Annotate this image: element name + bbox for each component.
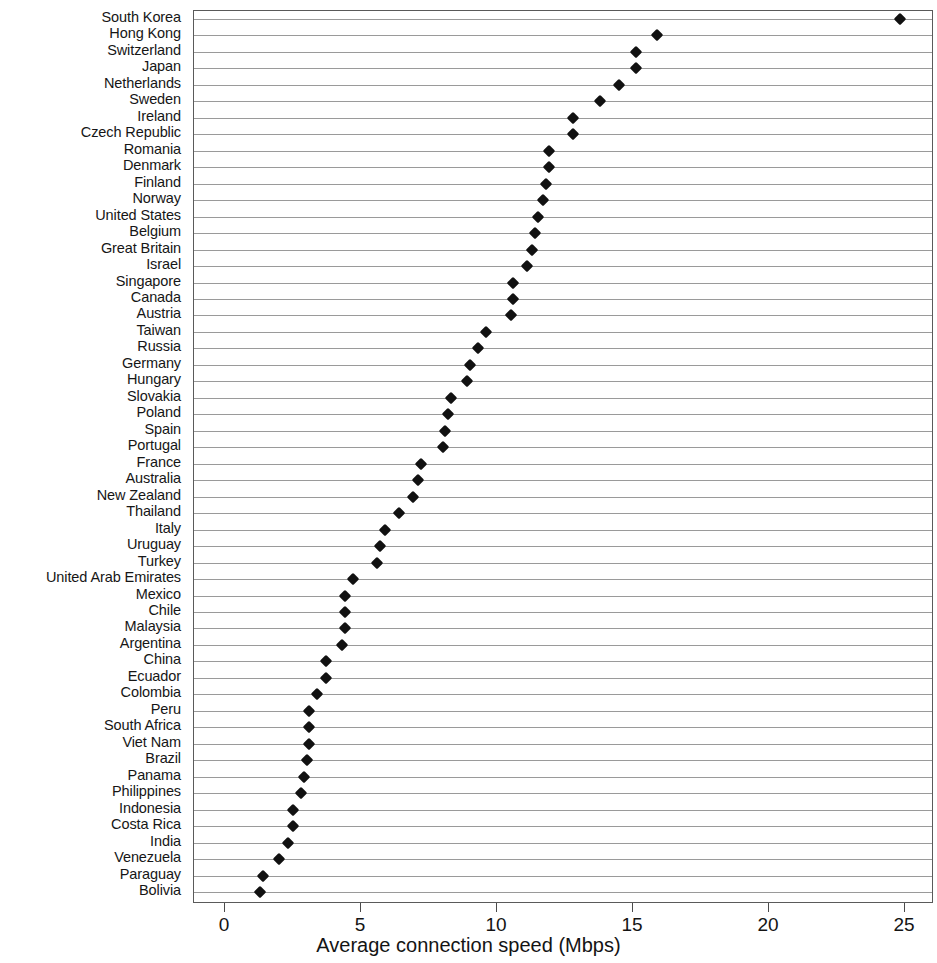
row-guide-line (194, 447, 932, 448)
dot-plot-chart: South KoreaHong KongSwitzerlandJapanNeth… (0, 0, 937, 963)
category-axis-label: South Africa (104, 718, 181, 732)
x-axis-tick-label: 20 (757, 914, 778, 936)
row-guide-line (194, 85, 932, 86)
data-point-marker (436, 441, 449, 454)
data-point-marker (414, 457, 427, 470)
data-point-marker (346, 573, 359, 586)
data-point-marker (567, 111, 580, 124)
category-axis-label: South Korea (101, 10, 181, 24)
row-guide-line (194, 217, 932, 218)
category-axis-label: Malaysia (125, 619, 181, 633)
data-point-marker (412, 474, 425, 487)
row-guide-line (194, 414, 932, 415)
category-axis-label: Hungary (127, 372, 181, 386)
category-axis-label: Panama (128, 768, 181, 782)
row-guide-line (194, 35, 932, 36)
row-guide-line (194, 596, 932, 597)
category-axis-label: Germany (122, 356, 181, 370)
data-point-marker (521, 260, 534, 273)
data-point-marker (371, 556, 384, 569)
x-axis-tick-label: 25 (893, 914, 914, 936)
row-guide-line (194, 826, 932, 827)
category-axis-label: Brazil (145, 751, 181, 765)
category-axis-label: Italy (155, 521, 181, 535)
category-axis-label: New Zealand (97, 488, 181, 502)
category-axis-label: Australia (125, 471, 181, 485)
category-axis-label: Czech Republic (81, 125, 181, 139)
row-guide-line (194, 628, 932, 629)
category-axis-label: Austria (137, 306, 181, 320)
row-guide-line (194, 513, 932, 514)
row-guide-line (194, 497, 932, 498)
category-axis-label: Japan (142, 59, 181, 73)
row-guide-line (194, 200, 932, 201)
row-guide-line (194, 134, 932, 135)
x-axis-tick-mark (360, 903, 361, 912)
category-axis-label: Peru (151, 702, 181, 716)
category-axis-label: Chile (148, 603, 181, 617)
row-guide-line (194, 464, 932, 465)
data-point-marker (504, 309, 517, 322)
row-guide-line (194, 315, 932, 316)
row-guide-line (194, 250, 932, 251)
data-point-marker (336, 639, 349, 652)
row-guide-line (194, 167, 932, 168)
row-guide-line (194, 381, 932, 382)
data-point-marker (254, 886, 267, 899)
category-axis-label: Turkey (138, 554, 181, 568)
row-guide-line (194, 678, 932, 679)
data-point-marker (567, 128, 580, 141)
data-point-marker (298, 770, 311, 783)
category-axis-label: United States (95, 208, 181, 222)
row-guide-line (194, 546, 932, 547)
category-axis-label: United Arab Emirates (46, 570, 181, 584)
row-guide-line (194, 365, 932, 366)
data-point-marker (893, 13, 906, 26)
row-guide-line (194, 68, 932, 69)
x-axis-tick-mark (224, 903, 225, 912)
row-guide-line (194, 283, 932, 284)
row-guide-line (194, 348, 932, 349)
row-guide-line (194, 299, 932, 300)
category-axis-label: Bolivia (139, 883, 181, 897)
data-point-marker (393, 507, 406, 520)
row-guide-line (194, 563, 932, 564)
row-guide-line (194, 694, 932, 695)
data-point-marker (319, 671, 332, 684)
category-axis-label: India (150, 834, 181, 848)
row-guide-line (194, 480, 932, 481)
data-point-marker (300, 754, 313, 767)
data-point-marker (444, 391, 457, 404)
row-guide-line (194, 266, 932, 267)
row-guide-line (194, 892, 932, 893)
row-guide-line (194, 332, 932, 333)
data-point-marker (338, 606, 351, 619)
category-axis-label: Romania (124, 142, 181, 156)
category-axis-label: Taiwan (136, 323, 181, 337)
row-guide-line (194, 151, 932, 152)
data-point-marker (542, 144, 555, 157)
x-axis-title: Average connection speed (Mbps) (0, 934, 937, 957)
category-axis-label: Netherlands (104, 76, 181, 90)
data-point-marker (463, 359, 476, 372)
data-point-marker (629, 46, 642, 59)
plot-area (193, 10, 933, 903)
data-point-marker (287, 803, 300, 816)
data-point-marker (281, 836, 294, 849)
row-guide-line (194, 184, 932, 185)
category-axis-label: Argentina (120, 636, 181, 650)
category-axis-label: Ecuador (128, 669, 181, 683)
category-axis-label: Philippines (112, 784, 181, 798)
row-guide-line (194, 19, 932, 20)
row-guide-line (194, 118, 932, 119)
category-axis-label: Poland (136, 405, 181, 419)
data-point-marker (406, 490, 419, 503)
data-point-marker (374, 540, 387, 553)
data-point-marker (613, 79, 626, 92)
data-point-marker (303, 704, 316, 717)
data-point-marker (629, 62, 642, 75)
data-point-marker (531, 210, 544, 223)
data-point-marker (526, 243, 539, 256)
data-point-marker (338, 589, 351, 602)
category-axis-label: Ireland (137, 109, 181, 123)
